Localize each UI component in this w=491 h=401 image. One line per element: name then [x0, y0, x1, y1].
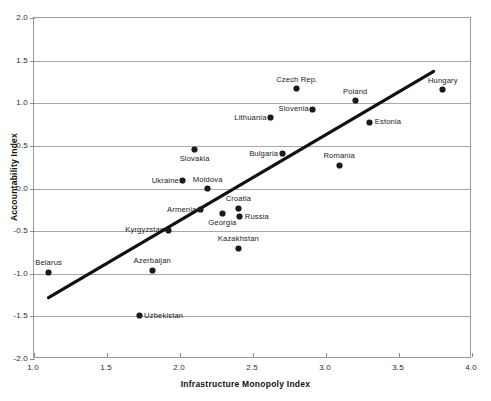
data-point-label: Slovenia	[279, 105, 309, 113]
data-point[interactable]	[150, 268, 155, 273]
x-tick-label: 2.5	[246, 363, 258, 372]
data-point-label: Estonia	[375, 118, 401, 126]
data-point[interactable]	[236, 246, 241, 251]
data-point-label: Croatia	[226, 196, 252, 204]
y-tick-mark	[30, 274, 35, 275]
trendline	[34, 18, 470, 357]
x-tick-label: 1.5	[100, 363, 112, 372]
data-point-label: Uzbekistan	[144, 312, 183, 320]
data-point-label: Kyrgyzstan	[125, 226, 164, 234]
x-tick-mark	[399, 353, 400, 357]
data-point[interactable]	[46, 270, 51, 275]
data-point[interactable]	[353, 98, 358, 103]
data-point[interactable]	[137, 313, 142, 318]
data-point[interactable]	[268, 115, 273, 120]
data-point[interactable]	[166, 228, 171, 233]
y-tick-label: -1.0	[0, 268, 28, 277]
plot-area: BelarusUzbekistanAzerbaijanKyrgyzstanSlo…	[33, 17, 471, 358]
y-tick-label: 1.0	[0, 98, 28, 107]
data-point[interactable]	[192, 147, 197, 152]
data-point-label: Slovakia	[180, 156, 210, 164]
y-tick-mark	[30, 18, 35, 19]
x-tick-mark	[472, 353, 473, 357]
data-point-label: Georgia	[208, 220, 236, 228]
x-tick-label: 4.0	[465, 363, 477, 372]
data-point[interactable]	[205, 186, 210, 191]
data-point[interactable]	[440, 87, 445, 92]
y-tick-mark	[30, 61, 35, 62]
x-tick-mark	[180, 353, 181, 357]
data-point[interactable]	[310, 107, 315, 112]
x-tick-mark	[326, 353, 327, 357]
data-point[interactable]	[280, 151, 285, 156]
x-tick-label: 3.0	[319, 363, 331, 372]
data-point-label: Russia	[245, 213, 269, 221]
scatter-chart: BelarusUzbekistanAzerbaijanKyrgyzstanSlo…	[0, 0, 491, 401]
x-tick-mark	[34, 353, 35, 357]
x-tick-label: 1.0	[27, 363, 39, 372]
y-tick-label: -2.0	[0, 354, 28, 363]
gridline	[34, 146, 470, 147]
data-point-label: Lithuania	[234, 114, 266, 122]
y-axis-title: Accountability Index	[9, 117, 19, 237]
y-tick-mark	[30, 359, 35, 360]
x-tick-mark	[253, 353, 254, 357]
data-point-label: Kazakhstan	[218, 236, 259, 244]
data-point-label: Moldova	[193, 176, 223, 184]
y-tick-mark	[30, 146, 35, 147]
x-tick-mark	[107, 353, 108, 357]
gridline	[34, 316, 470, 317]
data-point[interactable]	[367, 120, 372, 125]
x-tick-label: 2.0	[173, 363, 185, 372]
gridline	[34, 61, 470, 62]
y-tick-mark	[30, 316, 35, 317]
data-point-label: Ukraine	[152, 177, 179, 185]
y-tick-label: 1.5	[0, 55, 28, 64]
y-tick-mark	[30, 103, 35, 104]
data-point-label: Romania	[323, 153, 354, 161]
data-point-label: Azerbaijan	[134, 258, 171, 266]
y-tick-label: 2.0	[0, 13, 28, 22]
data-point-label: Belarus	[35, 259, 62, 267]
data-point-label: Bulgaria	[249, 150, 278, 158]
data-point-label: Armenia	[167, 206, 196, 214]
data-point[interactable]	[337, 163, 342, 168]
data-point-label: Hungary	[428, 77, 458, 85]
data-point[interactable]	[198, 207, 203, 212]
data-point[interactable]	[220, 211, 225, 216]
gridline	[34, 103, 470, 104]
y-tick-mark	[30, 231, 35, 232]
y-tick-label: -1.5	[0, 311, 28, 320]
gridline	[34, 274, 470, 275]
data-point[interactable]	[180, 178, 185, 183]
y-tick-mark	[30, 189, 35, 190]
x-tick-label: 3.5	[392, 363, 404, 372]
data-point-label: Czech Rep.	[276, 76, 317, 84]
data-point[interactable]	[294, 86, 299, 91]
data-point[interactable]	[236, 206, 241, 211]
gridline	[34, 189, 470, 190]
x-axis-title: Infrastructure Monopoly Index	[0, 379, 491, 389]
gridline	[34, 231, 470, 232]
data-point[interactable]	[237, 214, 242, 219]
data-point-label: Poland	[343, 88, 368, 96]
